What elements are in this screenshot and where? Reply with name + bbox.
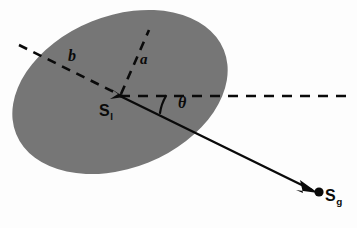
semi-major-axis-label: b [68, 48, 76, 64]
ellipse-shape [0, 0, 252, 204]
start-point-subscript: l [110, 111, 113, 122]
start-point-label: Sl [99, 103, 113, 122]
goal-point-symbol: S [325, 187, 336, 204]
angle-label: θ [178, 95, 186, 111]
geometry-diagram: Sl Sg a b θ [0, 0, 357, 228]
semi-minor-axis-label: a [140, 52, 148, 67]
goal-point-label: Sg [325, 188, 342, 207]
diagram-canvas [0, 0, 357, 228]
start-point-symbol: S [99, 102, 110, 119]
goal-point-subscript: g [336, 196, 342, 207]
goal-point-dot [314, 187, 323, 196]
